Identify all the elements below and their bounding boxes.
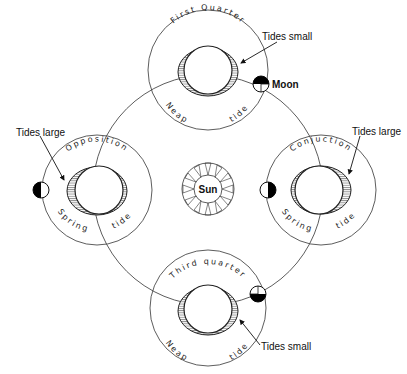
moon-icon: [253, 76, 269, 92]
position-third-quarter: Third quarter Neap tide Tides small: [150, 250, 311, 366]
callout-arrow: [241, 42, 277, 63]
moon-icon: [250, 286, 266, 302]
svg-text:tide: tide: [228, 103, 251, 124]
svg-text:Third quarter: Third quarter: [167, 257, 248, 281]
phase-label-first-quarter: First Quarter: [169, 3, 247, 26]
sun: Sun: [182, 163, 234, 215]
moon-icon: [260, 182, 276, 198]
position-first-quarter: First Quarter Neap tide Moon Tides small: [148, 3, 312, 130]
phase-label-third-quarter: Third quarter: [167, 257, 248, 281]
tide-label-tide-1: tide: [228, 103, 251, 124]
svg-text:tide: tide: [334, 210, 357, 230]
position-conjuction: Conjuction Spring tide Tides large: [260, 126, 402, 245]
sun-label: Sun: [199, 184, 218, 195]
callout-tides-small-bottom: Tides small: [261, 341, 311, 352]
svg-text:Neap: Neap: [164, 338, 190, 363]
svg-text:Opposition: Opposition: [64, 134, 130, 153]
tides-diagram: Sun First Quarter Neap tide Moon Tides s…: [0, 0, 407, 374]
phase-label-conjuction: Conjuction: [288, 134, 354, 153]
svg-text:Conjuction: Conjuction: [288, 134, 354, 153]
callout-tides-large-right: Tides large: [352, 126, 402, 137]
moon-icon: [33, 182, 49, 198]
callout-arrow: [349, 136, 360, 174]
moon-label: Moon: [272, 79, 299, 90]
tide-label-neap-2: Neap: [164, 338, 190, 363]
svg-text:tide: tide: [110, 210, 133, 230]
svg-text:First Quarter: First Quarter: [169, 3, 247, 26]
callout-arrow: [40, 136, 64, 180]
position-opposition: Opposition Spring tide Tides large: [16, 127, 152, 245]
tide-label-tide-3: tide: [334, 210, 357, 230]
callout-tides-small-top: Tides small: [262, 31, 312, 42]
callout-tides-large-left: Tides large: [16, 127, 66, 138]
phase-label-opposition: Opposition: [64, 134, 130, 153]
tide-label-tide-2: tide: [110, 210, 133, 230]
